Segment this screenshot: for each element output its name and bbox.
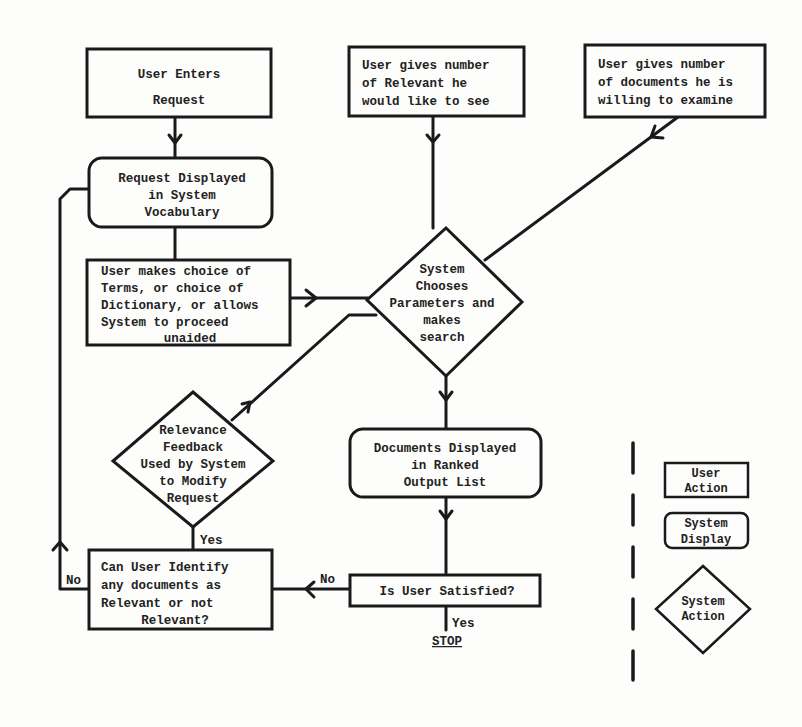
node-text: User gives number — [598, 58, 726, 72]
node-text: Documents Displayed — [374, 442, 517, 456]
node-text: makes — [423, 314, 461, 328]
node-text: User gives number — [362, 59, 490, 73]
node-documents-displayed: Documents Displayed in Ranked Output Lis… — [350, 429, 541, 497]
legend-text: System — [681, 595, 724, 609]
legend-text: Display — [681, 533, 731, 547]
node-text: in Ranked — [411, 459, 479, 473]
node-text: Request — [167, 492, 220, 506]
legend-text: System — [684, 517, 727, 531]
legend-text: User — [692, 467, 721, 481]
legend-text: Action — [684, 482, 727, 496]
node-text: any documents as — [101, 579, 221, 593]
node-text: Parameters and — [389, 297, 494, 311]
label-yes-feedback: Yes — [200, 534, 223, 548]
node-text: Vocabulary — [144, 206, 220, 220]
node-text: of documents he is — [598, 76, 733, 90]
node-user-enters-request: User Enters Request — [87, 49, 271, 117]
node-text: Can User Identify — [101, 561, 229, 575]
label-stop: STOP — [432, 635, 462, 649]
node-text: Request — [153, 94, 206, 108]
label-no-loop: No — [66, 574, 81, 588]
legend-user-action: User Action — [665, 463, 748, 497]
node-text: Terms, or choice of — [101, 282, 244, 296]
legend-system-display: System Display — [665, 513, 748, 548]
flowchart: User Enters Request Request Displayed in… — [0, 0, 802, 727]
node-text: Relevance — [159, 424, 227, 438]
node-text: Request Displayed — [118, 172, 246, 186]
node-user-gives-documents: User gives number of documents he is wil… — [585, 45, 765, 117]
legend-text: Action — [681, 610, 724, 624]
node-can-user-identify: Can User Identify any documents as Relev… — [89, 550, 272, 629]
node-text: Is User Satisfied? — [379, 585, 514, 599]
legend: User Action System Display System Action — [633, 443, 750, 680]
node-user-makes-choice: User makes choice of Terms, or choice of… — [87, 260, 290, 346]
node-text: Dictionary, or allows — [101, 299, 259, 313]
node-text: search — [419, 331, 464, 345]
node-text: Used by System — [140, 458, 246, 472]
node-is-user-satisfied: Is User Satisfied? — [350, 575, 540, 606]
node-text: User Enters — [138, 68, 221, 82]
node-user-gives-relevant: User gives number of Relevant he would l… — [349, 47, 524, 116]
node-text: in System — [148, 189, 216, 203]
edge-identify-no-loop — [60, 189, 90, 589]
node-text: Relevant? — [141, 614, 209, 628]
label-no-satisfied: No — [320, 573, 335, 587]
node-text: willing to examine — [598, 94, 733, 108]
node-text: System to proceed — [101, 316, 229, 330]
node-text: User makes choice of — [101, 265, 251, 279]
edge-documents-to-system — [485, 117, 678, 260]
node-text: Output List — [404, 476, 487, 490]
node-text: would like to see — [362, 95, 490, 109]
node-text: System — [419, 263, 465, 277]
node-text: unaided — [164, 332, 217, 346]
node-text: Relevant or not — [101, 597, 214, 611]
node-text: Chooses — [416, 280, 469, 294]
legend-system-action: System Action — [656, 566, 750, 653]
node-text: to Modify — [159, 475, 227, 489]
label-yes-satisfied: Yes — [452, 617, 475, 631]
node-text: Feedback — [163, 441, 224, 455]
node-request-displayed: Request Displayed in System Vocabulary — [89, 158, 272, 227]
node-text: of Relevant he — [362, 77, 467, 91]
